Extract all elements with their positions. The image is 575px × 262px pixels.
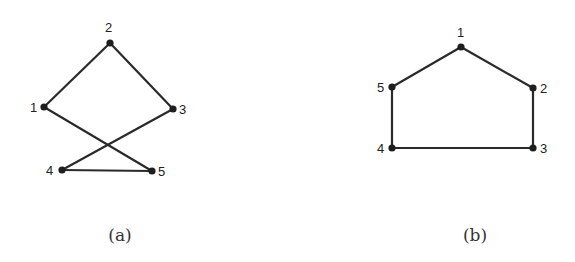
caption-a: (a) bbox=[108, 225, 131, 245]
edge-5-1 bbox=[392, 47, 461, 87]
node-4 bbox=[388, 144, 395, 151]
node-label: 5 bbox=[158, 164, 165, 179]
node-label: 1 bbox=[30, 100, 37, 115]
node-label: 5 bbox=[377, 80, 384, 95]
node-label: 4 bbox=[46, 163, 53, 178]
node-label: 2 bbox=[105, 20, 112, 35]
caption-b: (b) bbox=[463, 225, 487, 245]
edge-1-2 bbox=[44, 43, 110, 107]
graph-diagram-canvas: 12345(a)12345(b) bbox=[0, 0, 575, 262]
node-label: 1 bbox=[457, 25, 464, 40]
node-label: 3 bbox=[540, 141, 547, 156]
node-1 bbox=[40, 103, 47, 110]
edge-4-5 bbox=[62, 170, 152, 171]
node-3 bbox=[169, 105, 176, 112]
node-2 bbox=[529, 84, 536, 91]
node-label: 3 bbox=[179, 102, 186, 117]
node-5 bbox=[148, 167, 155, 174]
node-label: 2 bbox=[540, 81, 547, 96]
node-4 bbox=[58, 166, 65, 173]
edge-3-4 bbox=[62, 109, 173, 170]
node-5 bbox=[388, 83, 395, 90]
node-2 bbox=[106, 39, 113, 46]
graph-a: 12345(a) bbox=[30, 20, 186, 245]
node-1 bbox=[457, 43, 464, 50]
node-label: 4 bbox=[377, 141, 384, 156]
edge-1-2 bbox=[461, 47, 533, 88]
graph-b: 12345(b) bbox=[377, 25, 547, 245]
edge-1-5 bbox=[44, 107, 152, 171]
node-3 bbox=[529, 144, 536, 151]
edge-2-3 bbox=[110, 43, 173, 109]
